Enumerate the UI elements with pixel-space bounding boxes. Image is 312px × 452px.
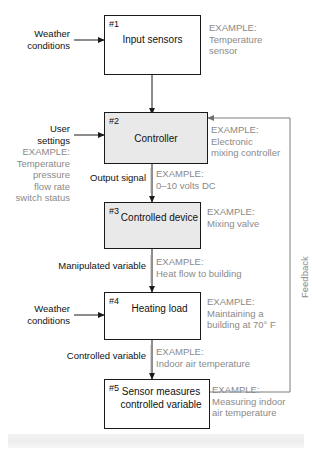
block-label-controlled-device: Controlled device bbox=[119, 212, 200, 225]
signal-label-output-signal: Output signal bbox=[58, 172, 146, 184]
example-input-sensors: EXAMPLE: Temperature sensor bbox=[209, 22, 309, 57]
signal-label-manipulated-variable: Manipulated variable bbox=[40, 260, 146, 272]
example-controlled-device: EXAMPLE: Mixing valve bbox=[207, 206, 307, 229]
block-label-input-sensors: Input sensors bbox=[105, 34, 200, 47]
feedback-label: Feedback bbox=[299, 256, 310, 298]
block-number-4: #4 bbox=[109, 296, 119, 306]
block-label-heating-load: Heating load bbox=[119, 303, 200, 316]
block-label-controller: Controller bbox=[105, 133, 207, 146]
block-number-3: #3 bbox=[109, 206, 119, 216]
block-sensor-measures[interactable]: #5 Sensor measures controlled variable bbox=[104, 379, 210, 429]
block-number-2: #2 bbox=[109, 116, 119, 126]
example-output-signal: EXAMPLE: 0–10 volts DC bbox=[156, 168, 256, 191]
example-controlled-variable: EXAMPLE: Indoor air temperature bbox=[156, 346, 282, 369]
example-sensor-measures: EXAMPLE: Measuring indoor air temperatur… bbox=[212, 384, 312, 419]
example-user-settings: EXAMPLE: Temperature pressure flow rate … bbox=[2, 146, 70, 204]
block-number-1: #1 bbox=[109, 19, 119, 29]
scan-artifact-band bbox=[8, 434, 304, 448]
block-controlled-device[interactable]: #3 Controlled device bbox=[104, 202, 201, 249]
block-input-sensors[interactable]: #1 Input sensors bbox=[104, 15, 201, 75]
block-label-sensor-measures: Sensor measures controlled variable bbox=[113, 386, 209, 411]
input-label-weather-conditions-2: Weather conditions bbox=[4, 303, 70, 326]
example-manipulated-variable: EXAMPLE: Heat flow to building bbox=[156, 256, 276, 279]
example-controller: EXAMPLE: Electronic mixing controller bbox=[211, 124, 312, 159]
example-heating-load: EXAMPLE: Maintaining a building at 70° F bbox=[207, 296, 311, 331]
signal-label-controlled-variable: Controlled variable bbox=[50, 350, 146, 362]
block-heating-load[interactable]: #4 Heating load bbox=[104, 292, 201, 340]
diagram-canvas: #1 Input sensors #2 Controller #3 Contro… bbox=[0, 0, 312, 452]
block-controller[interactable]: #2 Controller bbox=[104, 112, 208, 164]
input-label-user-settings: User settings bbox=[4, 123, 70, 146]
input-label-weather-conditions-1: Weather conditions bbox=[4, 28, 70, 51]
